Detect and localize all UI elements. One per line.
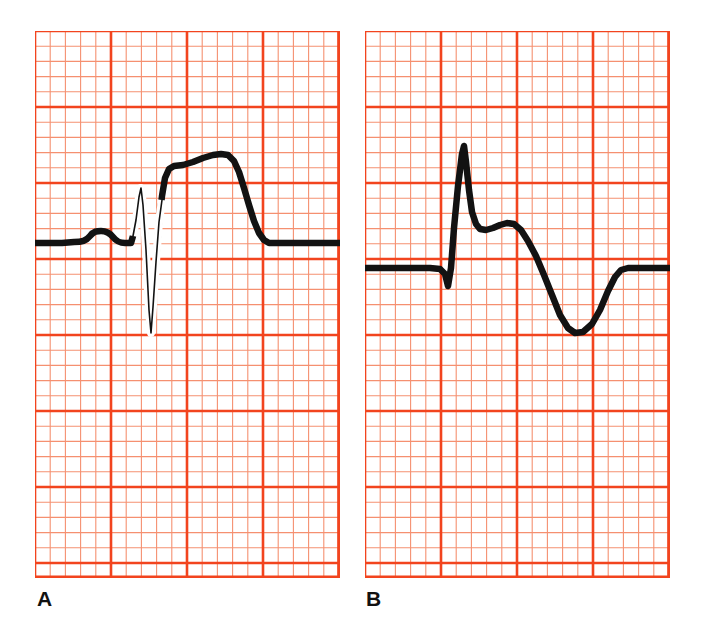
- ecg-strip-a: [35, 31, 340, 578]
- panel-label-a: A: [37, 588, 52, 609]
- ecg-strip-b: [365, 31, 670, 578]
- ecg-panel-a: [35, 31, 340, 578]
- ecg-panel-b: [365, 31, 670, 578]
- panel-label-b: B: [366, 588, 381, 609]
- ecg-figure: A B: [0, 0, 703, 642]
